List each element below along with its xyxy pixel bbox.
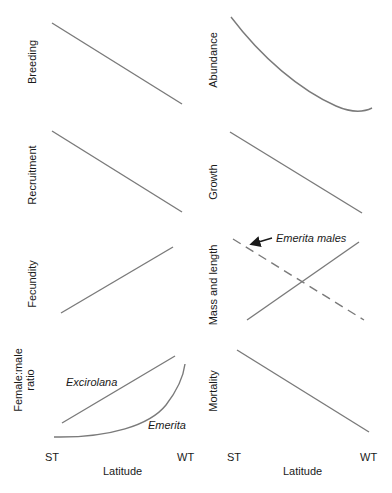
mass-length-line [247,242,359,320]
ylabel-growth: Growth [207,164,219,199]
ylabel-fecundity: Fecundity [26,260,38,308]
excirolana-label: Excirolana [66,376,117,388]
fecundity-line [61,247,173,313]
panel-growth: Growth [207,132,362,213]
ylabel-female-male: Female:male [12,348,24,412]
arrow-icon [252,238,272,244]
xlabel-latitude-right: Latitude [283,465,322,477]
xlabel-latitude-left: Latitude [103,465,142,477]
mortality-line [237,350,369,432]
emerita-males-label: Emerita males [276,232,347,244]
panel-sex-ratio: Female:male ratio Excirolana Emerita ST … [12,348,194,477]
emerita-label: Emerita [148,419,186,431]
ylabel-breeding: Breeding [26,40,38,84]
breeding-line [52,23,182,104]
xtick-wt-right: WT [360,451,377,463]
panel-mass-length: Mass and length Emerita males [207,232,364,325]
ylabel-abundance: Abundance [207,32,219,88]
xtick-wt-left: WT [177,451,194,463]
xtick-st-right: ST [227,451,241,463]
emerita-males-dashed-line [233,239,364,320]
ylabel-mass-length: Mass and length [207,245,219,326]
panel-fecundity: Fecundity [26,247,173,313]
panel-abundance: Abundance [207,17,372,111]
ylabel-mortality: Mortality [207,370,219,412]
growth-line [230,132,362,213]
latitude-trends-diagram: Breeding Recruitment Fecundity Female:ma… [0,0,392,493]
panel-breeding: Breeding [26,23,182,104]
xtick-st-left: ST [45,451,59,463]
recruitment-line [52,131,182,212]
ylabel-ratio: ratio [24,369,36,390]
ylabel-recruitment: Recruitment [26,145,38,204]
abundance-curve [231,17,372,111]
panel-mortality: Mortality ST WT Latitude [207,350,377,477]
panel-recruitment: Recruitment [26,131,182,212]
